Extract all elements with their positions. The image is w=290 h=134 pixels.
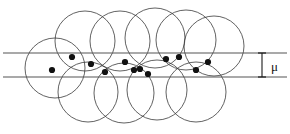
margin-annotation: μ [258, 53, 278, 77]
disk-upper-5 [125, 8, 185, 68]
sample-point-9 [176, 54, 182, 60]
margin-band-diagram: μ [0, 0, 290, 134]
sample-point-3 [102, 69, 108, 75]
figure-container: μ [0, 0, 290, 134]
disk-layer [25, 8, 244, 123]
sample-point-8 [163, 56, 169, 62]
sample-point-1 [69, 54, 75, 60]
sample-point-11 [205, 59, 211, 65]
sample-point-0 [49, 67, 55, 73]
sample-point-6 [137, 66, 143, 72]
sample-point-10 [193, 67, 199, 73]
sample-point-2 [88, 61, 94, 67]
sample-point-7 [145, 71, 151, 77]
disk-lower-0 [25, 38, 85, 98]
margin-symbol-label: μ [271, 59, 278, 74]
sample-point-5 [131, 67, 137, 73]
sample-point-4 [122, 59, 128, 65]
disk-upper-9 [184, 16, 244, 76]
disk-upper-3 [90, 11, 150, 71]
